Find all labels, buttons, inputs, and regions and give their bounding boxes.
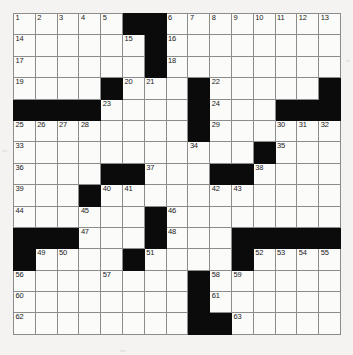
crossword-cell[interactable] — [253, 185, 275, 206]
crossword-cell[interactable] — [166, 270, 188, 291]
crossword-cell[interactable]: 31 — [297, 120, 319, 141]
crossword-cell[interactable] — [275, 313, 297, 334]
crossword-cell[interactable] — [35, 56, 57, 77]
crossword-cell[interactable] — [144, 142, 166, 163]
crossword-cell[interactable]: 36 — [14, 163, 36, 184]
crossword-cell[interactable]: 17 — [14, 56, 36, 77]
crossword-cell[interactable] — [166, 249, 188, 270]
crossword-cell[interactable]: 4 — [79, 14, 101, 35]
crossword-cell[interactable] — [122, 120, 144, 141]
crossword-cell[interactable] — [253, 270, 275, 291]
crossword-cell[interactable]: 30 — [275, 120, 297, 141]
crossword-cell[interactable] — [297, 56, 319, 77]
crossword-cell[interactable] — [319, 313, 341, 334]
crossword-cell[interactable]: 46 — [166, 206, 188, 227]
crossword-cell[interactable] — [144, 270, 166, 291]
crossword-cell[interactable] — [144, 120, 166, 141]
crossword-cell[interactable] — [253, 35, 275, 56]
crossword-cell[interactable] — [122, 270, 144, 291]
crossword-cell[interactable]: 22 — [210, 78, 232, 99]
crossword-cell[interactable]: 41 — [122, 185, 144, 206]
crossword-cell[interactable]: 44 — [14, 206, 36, 227]
crossword-cell[interactable] — [79, 163, 101, 184]
crossword-cell[interactable]: 56 — [14, 270, 36, 291]
crossword-cell[interactable]: 39 — [14, 185, 36, 206]
crossword-cell[interactable]: 33 — [14, 142, 36, 163]
crossword-cell[interactable] — [57, 270, 79, 291]
crossword-cell[interactable]: 26 — [35, 120, 57, 141]
crossword-cell[interactable] — [79, 35, 101, 56]
crossword-cell[interactable] — [188, 35, 210, 56]
crossword-cell[interactable] — [166, 185, 188, 206]
crossword-cell[interactable]: 13 — [319, 14, 341, 35]
crossword-cell[interactable] — [101, 35, 123, 56]
crossword-cell[interactable] — [231, 142, 253, 163]
crossword-cell[interactable] — [79, 142, 101, 163]
crossword-cell[interactable] — [57, 185, 79, 206]
crossword-cell[interactable] — [275, 35, 297, 56]
crossword-cell[interactable] — [231, 56, 253, 77]
crossword-cell[interactable] — [144, 185, 166, 206]
crossword-cell[interactable]: 55 — [319, 249, 341, 270]
crossword-cell[interactable]: 28 — [79, 120, 101, 141]
crossword-cell[interactable] — [57, 313, 79, 334]
crossword-cell[interactable]: 61 — [210, 292, 232, 313]
crossword-cell[interactable]: 40 — [101, 185, 123, 206]
crossword-cell[interactable]: 24 — [210, 99, 232, 120]
crossword-cell[interactable] — [210, 249, 232, 270]
crossword-cell[interactable] — [166, 313, 188, 334]
crossword-cell[interactable] — [122, 313, 144, 334]
crossword-cell[interactable]: 43 — [231, 185, 253, 206]
crossword-cell[interactable]: 57 — [101, 270, 123, 291]
crossword-cell[interactable] — [166, 142, 188, 163]
crossword-cell[interactable] — [122, 206, 144, 227]
crossword-cell[interactable] — [210, 206, 232, 227]
crossword-cell[interactable] — [231, 78, 253, 99]
crossword-cell[interactable] — [101, 313, 123, 334]
crossword-cell[interactable]: 10 — [253, 14, 275, 35]
crossword-cell[interactable] — [35, 163, 57, 184]
crossword-cell[interactable] — [166, 78, 188, 99]
crossword-cell[interactable] — [79, 249, 101, 270]
crossword-cell[interactable] — [319, 142, 341, 163]
crossword-cell[interactable] — [57, 206, 79, 227]
crossword-cell[interactable]: 11 — [275, 14, 297, 35]
crossword-cell[interactable] — [166, 292, 188, 313]
crossword-cell[interactable] — [210, 227, 232, 248]
crossword-cell[interactable]: 51 — [144, 249, 166, 270]
crossword-cell[interactable]: 3 — [57, 14, 79, 35]
crossword-cell[interactable] — [57, 78, 79, 99]
crossword-cell[interactable]: 54 — [297, 249, 319, 270]
crossword-cell[interactable] — [253, 120, 275, 141]
crossword-cell[interactable] — [275, 206, 297, 227]
crossword-cell[interactable] — [319, 185, 341, 206]
crossword-cell[interactable] — [188, 249, 210, 270]
crossword-cell[interactable] — [35, 206, 57, 227]
crossword-cell[interactable] — [101, 292, 123, 313]
crossword-cell[interactable] — [122, 142, 144, 163]
crossword-cell[interactable] — [57, 292, 79, 313]
crossword-cell[interactable] — [253, 292, 275, 313]
crossword-cell[interactable] — [253, 313, 275, 334]
crossword-cell[interactable]: 53 — [275, 249, 297, 270]
crossword-cell[interactable]: 32 — [319, 120, 341, 141]
crossword-cell[interactable] — [35, 270, 57, 291]
crossword-cell[interactable] — [166, 120, 188, 141]
crossword-cell[interactable] — [188, 56, 210, 77]
crossword-cell[interactable]: 47 — [79, 227, 101, 248]
crossword-cell[interactable] — [253, 78, 275, 99]
crossword-cell[interactable] — [101, 56, 123, 77]
crossword-cell[interactable]: 12 — [297, 14, 319, 35]
crossword-cell[interactable]: 8 — [210, 14, 232, 35]
crossword-cell[interactable] — [188, 185, 210, 206]
crossword-cell[interactable] — [101, 142, 123, 163]
crossword-cell[interactable] — [319, 35, 341, 56]
crossword-cell[interactable]: 48 — [166, 227, 188, 248]
crossword-cell[interactable] — [79, 270, 101, 291]
crossword-cell[interactable]: 19 — [14, 78, 36, 99]
crossword-cell[interactable]: 16 — [166, 35, 188, 56]
crossword-cell[interactable] — [166, 163, 188, 184]
crossword-cell[interactable]: 9 — [231, 14, 253, 35]
crossword-cell[interactable] — [79, 56, 101, 77]
crossword-cell[interactable] — [144, 292, 166, 313]
